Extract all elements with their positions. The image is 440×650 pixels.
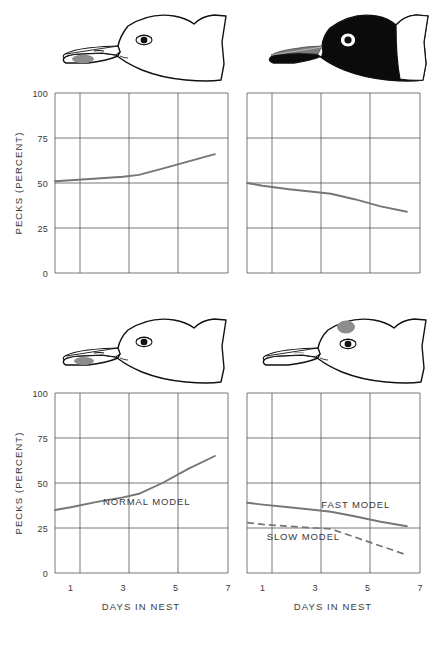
series-line-top-right [247,183,407,212]
grid-lines-bottom-right [247,393,420,573]
bill-spot-icon [72,55,94,63]
svg-text:5: 5 [173,583,178,593]
head-illustration-top-right [268,8,440,88]
series-line-top-left [55,154,215,181]
svg-text:7: 7 [417,583,422,593]
x-axis-title-bottom-left: DAYS IN NEST [102,601,180,612]
svg-text:100: 100 [32,389,48,399]
y-tick-labels-top-left: 100 75 50 25 0 [32,89,48,279]
svg-text:3: 3 [313,583,318,593]
chart-top-left: 100 75 50 25 0 PECKS (PERCENT) [0,88,235,313]
chart-bottom-left: 100 75 50 25 0 PECKS (PERCENT) 1 3 5 7 D… [0,388,235,650]
nostril-icon [294,353,304,354]
grid-lines-top-left [55,93,228,273]
series-label-slow-model: SLOW MODEL [267,531,340,542]
svg-text:75: 75 [38,134,48,144]
eye-icon [340,339,356,349]
nostril-icon [94,353,104,354]
svg-text:25: 25 [38,224,48,234]
x-tick-labels-bottom-right: 1 3 5 7 [260,583,422,593]
eye-icon [340,33,355,47]
svg-text:3: 3 [121,583,126,593]
svg-text:1: 1 [260,583,265,593]
forehead-spot-icon [337,321,355,334]
chart-bottom-right: 1 3 5 7 DAYS IN NEST FAST MODEL SLOW MOD… [205,388,440,650]
eye-icon [136,35,152,45]
grid-lines-top-right [247,93,420,273]
chart-top-right [205,88,440,313]
svg-text:0: 0 [43,569,48,579]
svg-text:50: 50 [38,179,48,189]
series-label-normal-model: NORMAL MODEL [103,496,191,507]
y-tick-labels-bottom-left: 100 75 50 25 0 [32,389,48,579]
white-nape-patch [396,15,428,80]
svg-text:50: 50 [38,479,48,489]
svg-text:75: 75 [38,434,48,444]
x-axis-title-bottom-right: DAYS IN NEST [294,601,372,612]
svg-text:1: 1 [68,583,73,593]
svg-text:5: 5 [365,583,370,593]
nostril-icon [94,51,104,52]
head-illustration-top-left [58,8,233,88]
y-axis-title-bottom-left: PECKS (PERCENT) [13,431,24,534]
svg-text:25: 25 [38,524,48,534]
head-illustration-bottom-left [58,312,233,390]
y-axis-title-top-left: PECKS (PERCENT) [13,131,24,234]
gull-pecking-response-figure: 100 75 50 25 0 PECKS (PERCENT) [0,0,440,650]
bill-spot-icon [74,357,94,365]
grid-lines-bottom-left [55,393,228,573]
svg-text:0: 0 [43,269,48,279]
svg-text:100: 100 [32,89,48,99]
head-illustration-bottom-right [258,312,436,390]
eye-icon [136,337,152,347]
series-label-fast-model: FAST MODEL [321,499,390,510]
